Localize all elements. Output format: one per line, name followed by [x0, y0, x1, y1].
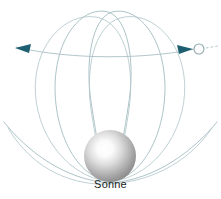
left-arrow-icon — [15, 44, 31, 53]
orbiting-body-icon — [194, 44, 204, 54]
right-arrow-icon — [177, 45, 193, 54]
orbit-diagram-figure: Sonne — [0, 0, 221, 199]
orbit-diagram-canvas — [0, 0, 221, 199]
sun-label: Sonne — [0, 178, 221, 191]
sun-sphere — [84, 130, 136, 182]
body-trail — [206, 46, 218, 48]
